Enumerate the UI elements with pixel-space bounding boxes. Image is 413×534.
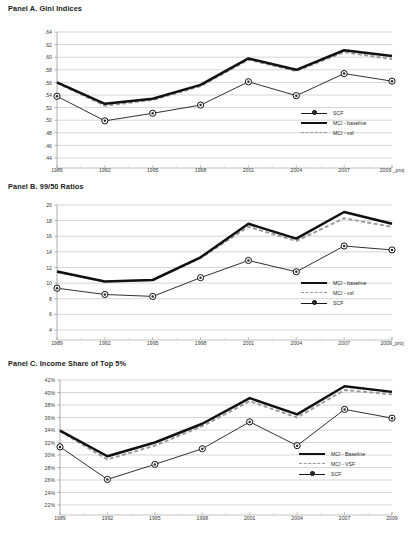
- svg-text:16: 16: [46, 233, 52, 239]
- svg-text:34%: 34%: [45, 427, 56, 433]
- legend-label: MCI - Baseline: [331, 450, 365, 458]
- panel-c: Panel C. Income Share of Top 5% 22%24%26…: [0, 355, 413, 533]
- legend-swatch-marker-icon: [298, 470, 326, 478]
- svg-text:.52: .52: [45, 105, 52, 111]
- svg-text:2004: 2004: [291, 340, 303, 346]
- legend-swatch-dash-icon: [300, 129, 328, 137]
- legend-item: SCF: [300, 108, 366, 118]
- legend-item: MCI - baseline: [300, 118, 366, 128]
- legend-item: MCI - Baseline: [298, 449, 365, 459]
- panel-a-plot: .44.46.48.50.52.54.56.58.60.62.641989199…: [0, 0, 413, 178]
- svg-text:28%: 28%: [45, 465, 56, 471]
- svg-text:2009: 2009: [386, 515, 398, 521]
- svg-text:2007: 2007: [339, 515, 351, 521]
- legend-swatch-marker-icon: [300, 109, 328, 117]
- panel-b-legend: MCI - baselineMCI - vsfSCF: [300, 278, 366, 308]
- figure-page: Panel A. Gini Indices .44.46.48.50.52.54…: [0, 0, 413, 534]
- legend-swatch-solid-icon: [298, 450, 326, 458]
- svg-text:4: 4: [49, 327, 52, 333]
- svg-text:8: 8: [49, 296, 52, 302]
- legend-swatch-dash-icon: [300, 289, 328, 297]
- svg-text:2001: 2001: [243, 340, 255, 346]
- svg-text:38%: 38%: [45, 402, 56, 408]
- svg-text:1998: 1998: [195, 167, 207, 173]
- legend-swatch-marker-icon: [300, 299, 328, 307]
- svg-text:.64: .64: [45, 29, 52, 35]
- legend-item: MCI - vsf: [300, 128, 366, 138]
- svg-text:32%: 32%: [45, 440, 56, 446]
- svg-text:2004: 2004: [291, 515, 303, 521]
- svg-text:.54: .54: [45, 92, 52, 98]
- legend-item: MCI - baseline: [300, 278, 366, 288]
- svg-text:1992: 1992: [102, 515, 114, 521]
- svg-text:40%: 40%: [45, 390, 56, 396]
- svg-text:1995: 1995: [149, 515, 161, 521]
- svg-text:2007: 2007: [338, 340, 350, 346]
- svg-text:42%: 42%: [45, 377, 56, 383]
- panel-c-legend: MCI - BaselineMCI - VSFSCF: [298, 449, 365, 479]
- svg-text:2007: 2007: [338, 167, 350, 173]
- panel-c-svg: 22%24%26%28%30%32%34%36%38%40%42%1989199…: [0, 355, 413, 533]
- legend-label: MCI - baseline: [333, 119, 366, 127]
- panel-b-svg: 4681012141618201989199219951998200120042…: [0, 178, 413, 356]
- legend-label: MCI - baseline: [333, 279, 366, 287]
- svg-text:14: 14: [46, 249, 52, 255]
- panel-a: Panel A. Gini Indices .44.46.48.50.52.54…: [0, 0, 413, 178]
- svg-text:1992: 1992: [99, 340, 111, 346]
- panel-a-legend: SCFMCI - baselineMCI - vsf: [300, 108, 366, 138]
- legend-label: MCI - vsf: [333, 129, 354, 137]
- svg-text:1995: 1995: [147, 340, 159, 346]
- svg-text:1995: 1995: [147, 167, 159, 173]
- svg-text:.44: .44: [45, 155, 52, 161]
- svg-text:2001: 2001: [244, 515, 256, 521]
- legend-label: MCI - VSF: [331, 460, 355, 468]
- svg-text:.48: .48: [45, 130, 52, 136]
- svg-text:10: 10: [46, 280, 52, 286]
- panel-a-svg: .44.46.48.50.52.54.56.58.60.62.641989199…: [0, 0, 413, 178]
- svg-text:22%: 22%: [45, 502, 56, 508]
- svg-text:2004: 2004: [291, 167, 303, 173]
- panel-c-plot: 22%24%26%28%30%32%34%36%38%40%42%1989199…: [0, 355, 413, 533]
- svg-text:.56: .56: [45, 80, 52, 86]
- svg-text:.58: .58: [45, 67, 52, 73]
- svg-text:1992: 1992: [99, 167, 111, 173]
- legend-item: SCF: [298, 469, 365, 479]
- svg-text:1989: 1989: [54, 515, 66, 521]
- svg-text:36%: 36%: [45, 415, 56, 421]
- svg-text:6: 6: [49, 311, 52, 317]
- svg-text:.62: .62: [45, 42, 52, 48]
- svg-text:.50: .50: [45, 117, 52, 123]
- svg-text:1998: 1998: [197, 515, 209, 521]
- svg-text:20: 20: [46, 202, 52, 208]
- legend-item: SCF: [300, 298, 366, 308]
- legend-swatch-dash-icon: [298, 460, 326, 468]
- svg-text:2009_proj: 2009_proj: [380, 340, 403, 346]
- legend-label: SCF: [333, 109, 343, 117]
- legend-item: MCI - VSF: [298, 459, 365, 469]
- svg-text:1989: 1989: [51, 340, 63, 346]
- svg-text:24%: 24%: [45, 490, 56, 496]
- svg-text:30%: 30%: [45, 452, 56, 458]
- svg-text:1998: 1998: [195, 340, 207, 346]
- svg-text:.46: .46: [45, 143, 52, 149]
- svg-text:2001: 2001: [243, 167, 255, 173]
- legend-label: SCF: [333, 299, 343, 307]
- panel-b: Panel B. 99/50 Ratios 468101214161820198…: [0, 178, 413, 356]
- legend-swatch-solid-icon: [300, 119, 328, 127]
- svg-text:18: 18: [46, 218, 52, 224]
- svg-text:26%: 26%: [45, 477, 56, 483]
- legend-label: SCF: [331, 470, 341, 478]
- legend-swatch-solid-icon: [300, 279, 328, 287]
- svg-text:.60: .60: [45, 54, 52, 60]
- legend-item: MCI - vsf: [300, 288, 366, 298]
- panel-b-plot: 4681012141618201989199219951998200120042…: [0, 178, 413, 356]
- svg-text:12: 12: [46, 265, 52, 271]
- svg-text:1989: 1989: [51, 167, 63, 173]
- legend-label: MCI - vsf: [333, 289, 354, 297]
